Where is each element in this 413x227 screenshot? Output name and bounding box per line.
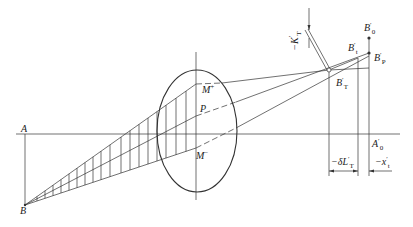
label-M-plus: M+ <box>202 84 214 95</box>
arrowhead <box>369 170 374 173</box>
label-delta-L-T: −δL′T <box>331 156 354 170</box>
label-B0-prime: B′0 <box>364 22 375 36</box>
label-KT-prime: −K′T <box>288 32 302 51</box>
point-BT <box>327 68 331 72</box>
label-Bt-prime: B′t <box>348 42 358 56</box>
label-M-minus: M− <box>196 150 208 161</box>
kt-line-1 <box>305 30 327 70</box>
label-A0-prime: A′0 <box>372 138 383 152</box>
ray-lower-img <box>236 56 369 128</box>
label-BT-prime: B′T <box>336 77 348 91</box>
ray-upper-img <box>222 70 329 83</box>
point-B0 <box>367 36 370 39</box>
ray-horizontal-img <box>329 68 369 70</box>
point-BP <box>367 51 370 54</box>
hatch-lines <box>37 91 186 201</box>
label-A: A <box>21 124 27 134</box>
diagram-graphics <box>0 0 413 227</box>
label-B: B <box>20 206 26 216</box>
ray-lower-dash <box>196 128 236 148</box>
kt-line-2 <box>308 29 330 69</box>
ray-chief-img <box>236 53 369 102</box>
ray-chief-obj <box>25 116 196 205</box>
lens-ellipse <box>157 70 237 192</box>
optics-diagram: A B M+ P M− A′0 B′0 B′t B′P B′T −K′T −δL… <box>0 0 413 227</box>
ray-upper-obj <box>25 84 196 205</box>
label-BP-prime: B′P <box>374 52 386 66</box>
label-P: P <box>200 104 206 114</box>
label-x-t: −x′t <box>375 156 390 170</box>
